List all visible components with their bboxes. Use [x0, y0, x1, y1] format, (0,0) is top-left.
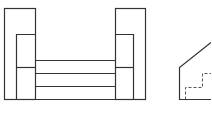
technical-drawing: [0, 0, 211, 113]
hidden-stepped-edge: [186, 74, 212, 100]
side-view: [180, 43, 212, 100]
side-profile-outline: [180, 43, 212, 100]
right-upright-block: [116, 9, 146, 100]
front-view: [5, 9, 146, 100]
left-upright-block: [5, 9, 36, 100]
